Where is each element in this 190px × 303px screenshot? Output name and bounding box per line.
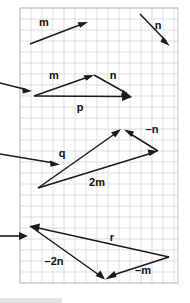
label-n-2: n bbox=[110, 69, 117, 81]
label-minus-n: –n bbox=[146, 123, 159, 135]
label-m-2: m bbox=[49, 69, 59, 81]
page-background bbox=[0, 0, 190, 303]
label-minus-2n: –2n bbox=[45, 255, 64, 267]
page-edge-shadow bbox=[0, 298, 62, 303]
label-m-1: m bbox=[39, 16, 49, 28]
vector-diagram-figure: m n m n p bbox=[0, 0, 190, 303]
label-p: p bbox=[77, 101, 84, 113]
label-minus-m: –m bbox=[135, 264, 151, 276]
label-q: q bbox=[59, 147, 66, 159]
label-2m: 2m bbox=[89, 176, 105, 188]
label-r: r bbox=[110, 231, 115, 243]
label-n-1: n bbox=[155, 19, 162, 31]
